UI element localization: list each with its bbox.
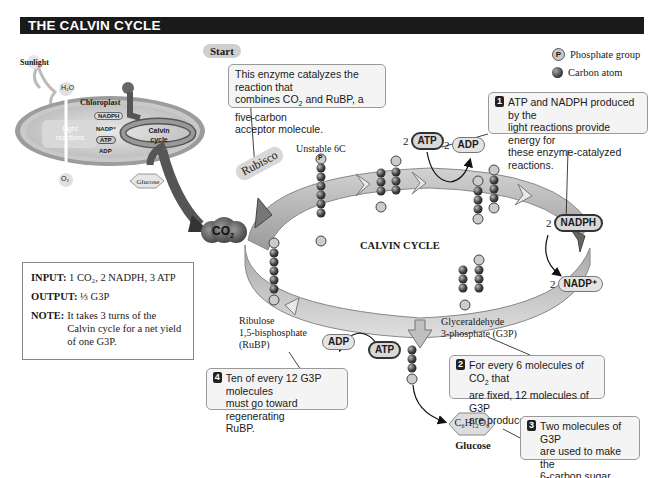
- step4-badge: 4: [213, 372, 222, 383]
- step1-badge: 1: [495, 96, 504, 107]
- inset-adp: ADP: [96, 148, 115, 154]
- step2-callout: 2 For every 6 molecules of CO2 that are …: [449, 355, 605, 399]
- rubisco-callout-line2: combines CO2 and RuBP, a five-carbon: [235, 93, 379, 123]
- inset-nadph: NADPH: [94, 112, 123, 120]
- glucose-label: Glucose: [452, 440, 494, 451]
- inset-atp: ATP: [96, 136, 116, 144]
- note-line: NOTE: It takes 3 turns of theCalvin cycl…: [31, 309, 185, 348]
- nadph: 2NADPH: [546, 214, 603, 232]
- step3-callout: 3 Two molecules of G3Pare used to make t…: [520, 416, 640, 460]
- atp-top: 2ATP: [403, 132, 444, 150]
- phosphate-p: P: [318, 154, 323, 161]
- adp-top: 2ADP: [444, 137, 485, 153]
- chloroplast-inset: [15, 55, 205, 188]
- co2-label: CO2: [212, 224, 234, 239]
- exiting-g3p: [407, 346, 417, 385]
- nadp-plus: 2NADP⁺: [550, 276, 603, 292]
- inset-calvin-cycle-label: Calvin cycle: [143, 126, 175, 144]
- legend: P Phosphate group Carbon atom: [552, 48, 640, 78]
- light-reactions-label: Light reactions: [48, 124, 92, 142]
- summary-box: INPUT: 1 CO₂, 2 NADPH, 3 ATP OUTPUT: ⅓ G…: [22, 262, 194, 360]
- input-line: INPUT: 1 CO₂, 2 NADPH, 3 ATP: [31, 271, 185, 284]
- rubisco-callout-line1: This enzyme catalyzes the reaction that: [235, 68, 379, 93]
- step2-badge: 2: [456, 359, 465, 370]
- rubp-label: Ribulose1,5-bisphosphate(RuBP): [239, 315, 307, 351]
- adp-bottom: ADP: [322, 334, 355, 350]
- step1-callout: 1 ATP and NADPH produced by thelight rea…: [488, 92, 648, 134]
- h2o-label: H₂O: [61, 84, 74, 91]
- inset-nadp: NADP⁺: [96, 125, 116, 132]
- calvin-cycle-label: CALVIN CYCLE: [360, 240, 440, 251]
- o2-label: O₂: [61, 175, 69, 182]
- g3p-pair: [459, 255, 485, 310]
- phosphate-icon: P: [552, 48, 565, 61]
- atp-bottom: ATP: [368, 341, 401, 359]
- step3-badge: 3: [527, 420, 536, 431]
- rubisco-callout-line3: acceptor molecule.: [235, 123, 379, 136]
- step4-callout: 4 Ten of every 12 G3P moleculesmust go t…: [206, 368, 348, 410]
- glucose-formula: C₆H₁₂O₆: [452, 417, 492, 428]
- output-line: OUTPUT: ⅓ G3P: [31, 290, 185, 303]
- legend-carbon: Carbon atom: [552, 67, 640, 78]
- sunlight-label: Sunlight: [20, 57, 49, 69]
- g3p-label: Glyceraldehyde3-phosphate (G3P): [441, 316, 517, 340]
- legend-phosphate: P Phosphate group: [552, 48, 640, 61]
- start-badge: Start: [203, 44, 241, 58]
- rubisco-callout: This enzyme catalyzes the reaction that …: [228, 64, 386, 108]
- chloroplast-label: Chloroplast: [80, 97, 120, 109]
- carbon-atom-icon: [552, 67, 563, 78]
- inset-glucose-label: Glucose: [133, 176, 163, 188]
